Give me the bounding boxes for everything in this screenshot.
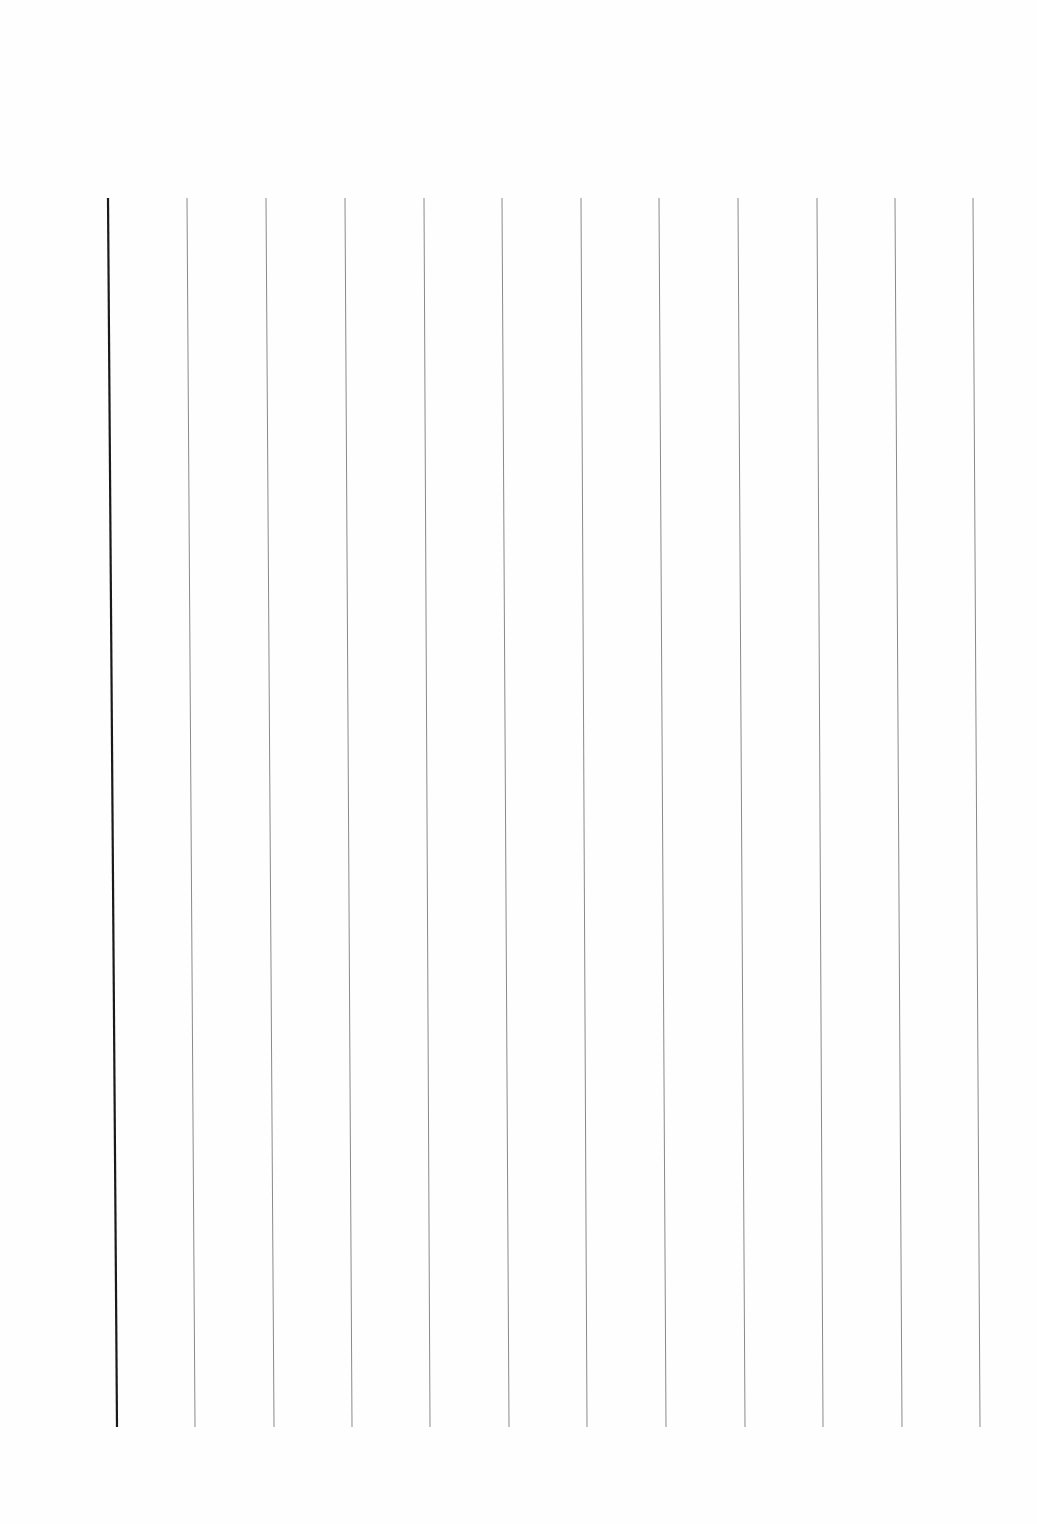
rule-line (502, 198, 509, 1427)
rule-line (973, 198, 980, 1427)
rule-line (266, 198, 274, 1427)
rule-line (817, 198, 823, 1427)
rule-line (581, 198, 587, 1427)
rule-line (738, 198, 745, 1427)
rule-line (424, 198, 430, 1427)
rule-line (187, 198, 195, 1427)
ruled-page (0, 0, 1037, 1524)
ruled-lines (0, 0, 1037, 1524)
margin-line (108, 198, 117, 1427)
rule-line (659, 198, 666, 1427)
rule-line (345, 198, 352, 1427)
rule-line (895, 198, 902, 1427)
